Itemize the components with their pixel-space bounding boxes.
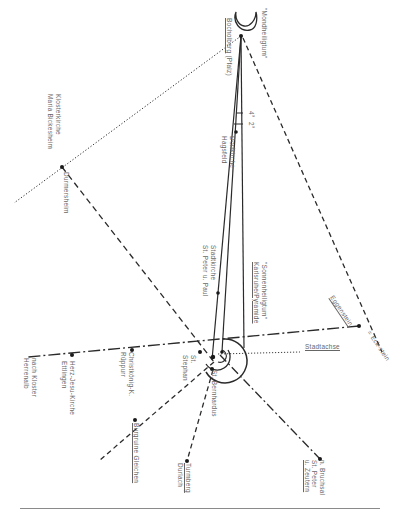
label-herrenalb: nach KlosterHerrenalb (23, 358, 38, 397)
label-angle-2: 2° (248, 122, 256, 129)
bickesheim-dashed-line (62, 167, 214, 362)
label-mondheiligtum: "Mondheiligtum" (261, 8, 269, 59)
node-mondheiligtum (239, 34, 243, 38)
moon-crescent-icon (235, 12, 257, 30)
label-st-stephan-line1: St. (190, 355, 198, 381)
label-klosterkirche-line1: Klosterkirche (55, 94, 63, 149)
mond-stadtkirche-solid-line (222, 36, 241, 352)
label-klosterkirche: KlosterkircheMaria Bickesheim (47, 94, 62, 149)
label-st-stephan-line2: Stephan (182, 355, 190, 381)
label-sonnen-line2: Karlsruhe/Pyramide (253, 262, 261, 324)
label-dorfkirche-line1: Dorfkirche (229, 136, 237, 168)
label-stadtkirche: StadtkircheSt. Peter u. Paul (202, 245, 217, 297)
label-stadtkirche-line1: Stadtkirche (210, 245, 218, 297)
label-bocholberg: Bocholberg (Pfalz) (226, 18, 234, 76)
label-christkoenig-line1: Christkönig-K. (128, 352, 136, 396)
label-stadtkirche-line2: St. Peter u. Paul (202, 245, 210, 297)
label-st-stephan: St.Stephan (182, 355, 197, 381)
mond-stephan-solid-line (212, 36, 241, 360)
label-bocholberg-region: (Pfalz) (226, 55, 233, 76)
label-bruchsal-line1: n. Bruchsal (319, 460, 327, 495)
node-burgruine (133, 418, 137, 422)
label-sonnen-line1: "Sonnenheiligtum" (261, 262, 269, 324)
node-dorfkirche (234, 130, 238, 134)
node-karlsruhe-center (211, 355, 215, 359)
label-st-bernhardus: St. Bernhardus (211, 370, 219, 417)
eckstein-herrenalb-dashdot-line (28, 326, 359, 357)
label-sonnenheiligtum: "Sonnenheiligtum"Karlsruhe/Pyramide (253, 262, 268, 324)
label-klosterkirche-line2: Maria Bickesheim (47, 94, 55, 149)
middle-arc (206, 350, 230, 370)
label-bruchsal-line2: St. Peter (311, 460, 319, 495)
label-turmberg-line1: Turmberg (185, 463, 193, 493)
label-dorfkirche: DorfkircheHagsfeld (221, 136, 236, 168)
label-stadtachse-text: Stadtachse (305, 343, 340, 350)
label-bocholberg-name: Bocholberg (226, 18, 233, 53)
label-dorfkirche-line2: Hagsfeld (221, 136, 229, 168)
node-st-stephan (198, 350, 202, 354)
mond-sonnen-solid-line (241, 36, 244, 348)
label-herzjesu-line1: Herz-Jesu-Kirche (69, 361, 77, 415)
label-herrenalb-line1: nach Kloster (31, 358, 39, 397)
node-herzjesu (70, 353, 74, 357)
label-turmberg-line2: Durlach (177, 463, 185, 493)
bruchsal-dashdot-line (220, 355, 320, 459)
label-herzjesu-line2: Ettlingen (61, 361, 69, 415)
label-burgruine: Burgruine Gleichen (133, 423, 141, 483)
node-klosterkirche (60, 165, 64, 169)
label-christkoenig-line2: Rüppurr (120, 352, 128, 396)
label-bruchsal: n. BruchsalSt. Peteru. Zeutern (304, 460, 327, 495)
label-herzjesu: Herz-Jesu-KircheEttlingen (61, 361, 76, 415)
node-sonnen (220, 350, 224, 354)
label-christkoenig: Christkönig-K.Rüppurr (120, 352, 135, 396)
label-turmberg: TurmbergDurlach (177, 463, 192, 493)
label-bruchsal-line3: u. Zeutern (304, 460, 312, 495)
label-angle-4: 4° (248, 111, 256, 118)
bottom-rule-divider (20, 508, 380, 509)
label-stadtachse: Stadtachse (305, 343, 340, 351)
turmberg-dashed-line (187, 370, 213, 461)
label-burgruine-text: Burgruine Gleichen (133, 423, 140, 483)
node-eckstein (357, 324, 361, 328)
label-durmersheim: Durmersheim (63, 172, 71, 214)
label-herrenalb-line2: Herrenalb (23, 358, 31, 397)
